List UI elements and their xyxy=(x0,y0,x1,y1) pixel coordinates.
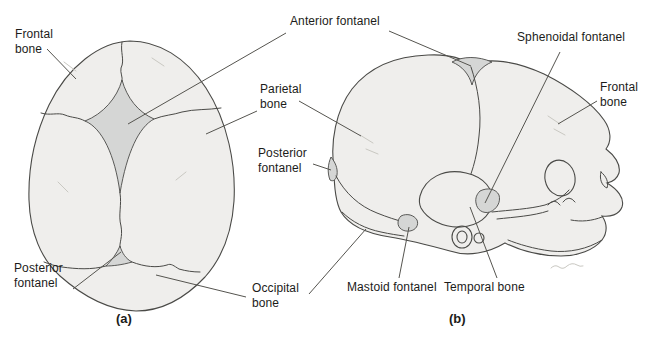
label-temporal-bone: Temporal bone xyxy=(444,280,525,295)
label-posterior-fontanel-a: Posterior fontanel xyxy=(14,261,63,291)
label-frontal-bone-a: Frontal bone xyxy=(15,27,53,57)
label-mastoid-fontanel: Mastoid fontanel xyxy=(347,280,437,295)
skull-b-outline xyxy=(333,55,623,256)
label-posterior-fontanel-b: Posterior fontanel xyxy=(258,146,307,176)
caption-view-a: (a) xyxy=(116,311,132,326)
label-frontal-bone-b: Frontal bone xyxy=(600,80,638,110)
fontanel-figure: Frontal bone Anterior fontanel Sphenoida… xyxy=(0,0,655,346)
skull-illustrations xyxy=(0,0,655,346)
caption-view-b: (b) xyxy=(449,311,466,326)
label-occipital-bone: Occipital bone xyxy=(252,281,299,311)
label-parietal-bone: Parietal bone xyxy=(260,82,302,112)
skull-b-mastoid-fontanel xyxy=(398,215,418,232)
skull-lateral-view xyxy=(328,55,622,268)
illustrator-signature xyxy=(551,264,583,269)
label-sphenoidal-fontanel: Sphenoidal fontanel xyxy=(517,30,625,45)
label-anterior-fontanel: Anterior fontanel xyxy=(290,14,380,29)
